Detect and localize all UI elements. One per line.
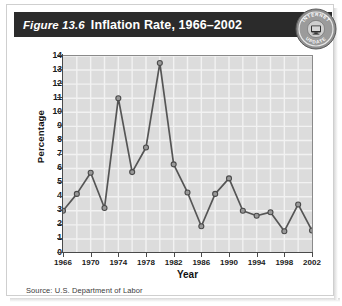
x-axis-title: Year xyxy=(63,269,312,280)
y-tick-mark xyxy=(57,154,62,155)
x-tick-label: 1974 xyxy=(103,258,133,267)
data-point xyxy=(171,162,176,167)
x-tick-mark xyxy=(91,253,92,257)
x-tick-mark xyxy=(312,253,313,257)
data-point xyxy=(227,176,232,181)
y-tick-mark xyxy=(57,168,62,169)
data-point xyxy=(185,190,190,195)
figure-title-label: Inflation Rate, 1966–2002 xyxy=(91,18,242,32)
y-tick-mark xyxy=(57,224,62,225)
x-tick-mark xyxy=(63,253,64,257)
y-tick-mark xyxy=(57,196,62,197)
x-tick-mark xyxy=(229,253,230,257)
data-point xyxy=(282,229,287,234)
figure-container: Figure 13.6 Inflation Rate, 1966–2002 IN… xyxy=(6,4,334,296)
x-tick-label: 1994 xyxy=(242,258,272,267)
x-tick-mark xyxy=(257,253,258,257)
data-point xyxy=(296,202,301,207)
y-tick-mark xyxy=(57,252,62,253)
x-tick-mark xyxy=(146,253,147,257)
x-axis-line xyxy=(62,252,313,253)
data-point xyxy=(240,208,245,213)
plot-area xyxy=(63,55,313,253)
figure-shadow-right xyxy=(334,8,338,300)
figure-shadow-bottom xyxy=(10,298,340,302)
data-point xyxy=(144,145,149,150)
figure-title-bar: Figure 13.6 Inflation Rate, 1966–2002 xyxy=(14,12,332,37)
x-tick-mark xyxy=(118,253,119,257)
x-tick-label: 1978 xyxy=(131,258,161,267)
data-point xyxy=(213,191,218,196)
gridlines xyxy=(63,56,312,253)
x-tick-label: 1966 xyxy=(48,258,78,267)
x-tick-label: 1982 xyxy=(159,258,189,267)
x-tick-label: 1986 xyxy=(186,258,216,267)
data-point xyxy=(63,208,66,213)
data-point xyxy=(254,213,259,218)
x-tick-mark xyxy=(284,253,285,257)
figure-number-label: Figure 13.6 xyxy=(23,19,85,31)
source-note: Source: U.S. Department of Labor xyxy=(26,286,143,295)
data-point xyxy=(130,170,135,175)
data-point xyxy=(199,224,204,229)
x-tick-label: 1998 xyxy=(269,258,299,267)
y-tick-mark xyxy=(57,139,62,140)
x-tick-mark xyxy=(174,253,175,257)
data-point xyxy=(268,210,273,215)
data-point xyxy=(157,61,162,66)
chart: 14131211109876543210 1966197019741978198… xyxy=(14,39,332,279)
y-axis-line xyxy=(62,54,63,253)
y-tick-mark xyxy=(57,69,62,70)
y-tick-mark xyxy=(57,97,62,98)
y-axis-title: Percentage xyxy=(35,97,46,177)
y-tick-mark xyxy=(57,125,62,126)
y-tick-mark xyxy=(57,182,62,183)
y-tick-mark xyxy=(57,238,62,239)
x-tick-label: 1970 xyxy=(76,258,106,267)
inflation-line-chart xyxy=(63,56,312,253)
x-tick-label: 1990 xyxy=(214,258,244,267)
data-point xyxy=(116,96,121,101)
data-point xyxy=(310,228,313,233)
y-tick-mark xyxy=(57,83,62,84)
data-point xyxy=(102,205,107,210)
y-tick-mark xyxy=(57,111,62,112)
x-tick-label: 2002 xyxy=(297,258,327,267)
x-tick-mark xyxy=(201,253,202,257)
data-point xyxy=(74,191,79,196)
y-tick-mark xyxy=(57,210,62,211)
y-tick-mark xyxy=(57,55,62,56)
data-point xyxy=(88,170,93,175)
